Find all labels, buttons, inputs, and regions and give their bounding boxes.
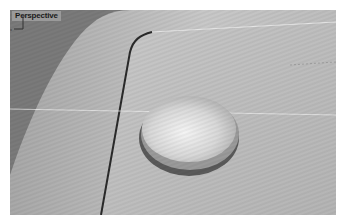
axis-z-label: z <box>24 13 26 18</box>
model-render <box>10 10 336 215</box>
perspective-viewport[interactable]: Perspective x z <box>10 10 336 215</box>
axis-gizmo-icon: x z <box>10 10 30 32</box>
axis-x-label: x <box>10 27 12 32</box>
